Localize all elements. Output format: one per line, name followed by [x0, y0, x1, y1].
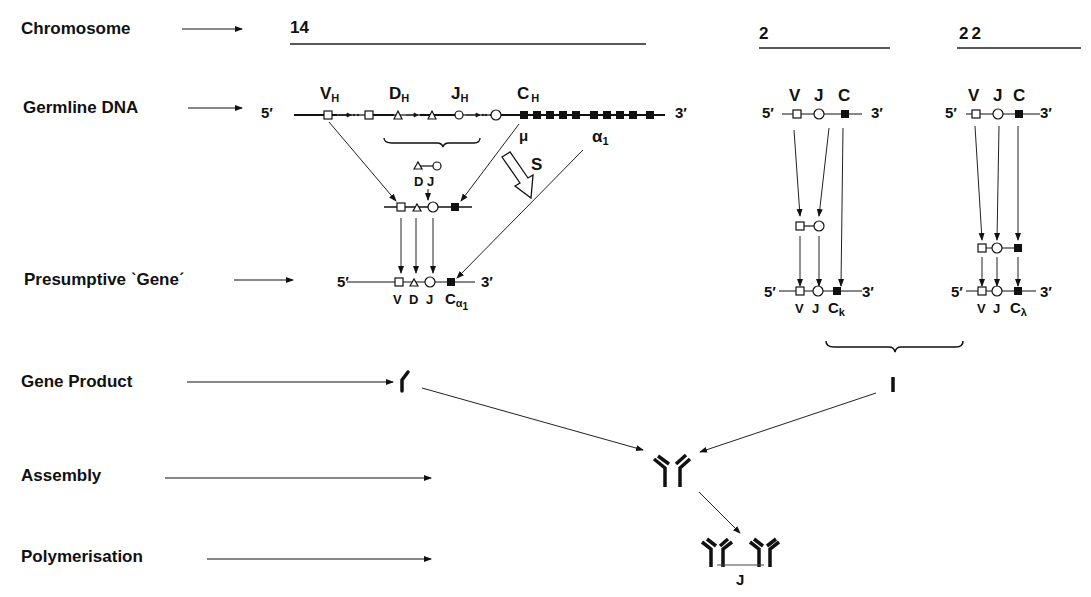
antibody-polymer-icon	[702, 539, 779, 567]
vh-label: VH	[320, 84, 339, 104]
kappa-v-label: V	[789, 86, 800, 106]
gene-v-label: V	[393, 292, 402, 307]
lambda-j-label: J	[993, 86, 1002, 106]
lambda-presumptive-gene	[966, 286, 1036, 296]
kappa-germline-dna	[782, 109, 862, 119]
five-prime-gene-heavy: 5′	[337, 273, 349, 290]
switch-label: S	[531, 155, 542, 175]
jh-segment-icon	[455, 111, 463, 119]
dh-label: DH	[389, 84, 409, 104]
three-prime-heavy: 3′	[675, 104, 687, 121]
diagram-canvas	[0, 0, 1091, 597]
five-prime-gene-kappa: 5′	[764, 283, 776, 300]
lambda-vjc-joined	[978, 243, 1022, 253]
lambda-gene-c-label: Cλ	[1010, 299, 1027, 318]
jh-label: JH	[451, 84, 468, 104]
gene-d-label: D	[409, 292, 418, 307]
dj-brace	[384, 138, 480, 147]
heavy-chain-product-icon	[402, 372, 408, 391]
vh-segment-icon	[324, 111, 332, 119]
v-to-intermediate-arrow	[329, 122, 396, 201]
vdj-intermediate	[384, 202, 472, 212]
lambda-c-label: C	[1013, 86, 1025, 106]
ch-label: CH	[517, 84, 539, 104]
switch-arrow-icon	[502, 152, 533, 198]
kappa-gene-v-label: V	[795, 301, 804, 316]
row-arrows	[165, 29, 431, 559]
kappa-j-label: J	[814, 86, 823, 106]
lambda-gene-v-label: V	[977, 301, 986, 316]
three-prime-gene-heavy: 3′	[481, 273, 493, 290]
gene-c-alpha1-label: Cα1	[445, 290, 468, 312]
dj-label: D J	[414, 174, 434, 189]
heavy-presumptive-gene	[347, 277, 475, 287]
j-chain-label: J	[736, 571, 744, 588]
lambda-gene-j-label: J	[993, 301, 1000, 316]
five-prime-heavy: 5′	[261, 104, 273, 121]
five-prime-gene-lambda: 5′	[951, 283, 963, 300]
three-prime-gene-lambda: 3′	[1040, 283, 1052, 300]
three-prime-lambda: 3′	[1040, 104, 1052, 121]
alpha1-label: α1	[592, 127, 609, 147]
five-prime-kappa: 5′	[762, 104, 774, 121]
kappa-gene-j-label: J	[812, 301, 819, 316]
lambda-v-label: V	[968, 86, 979, 106]
kappa-c-label: C	[838, 86, 850, 106]
kappa-vj-joined	[796, 221, 824, 231]
kappa-gene-c-label: Ck	[828, 299, 845, 318]
mu-label: μ	[519, 127, 528, 144]
kappa-presumptive-gene	[779, 286, 862, 296]
lambda-germline-dna	[966, 109, 1040, 119]
antibody-monomer-icon	[654, 455, 690, 487]
three-prime-gene-kappa: 3′	[862, 283, 874, 300]
dj-joined	[414, 162, 441, 170]
light-chain-brace	[826, 341, 963, 352]
three-prime-kappa: 3′	[871, 104, 883, 121]
five-prime-lambda: 5′	[945, 104, 957, 121]
gene-j-label: J	[426, 292, 433, 307]
